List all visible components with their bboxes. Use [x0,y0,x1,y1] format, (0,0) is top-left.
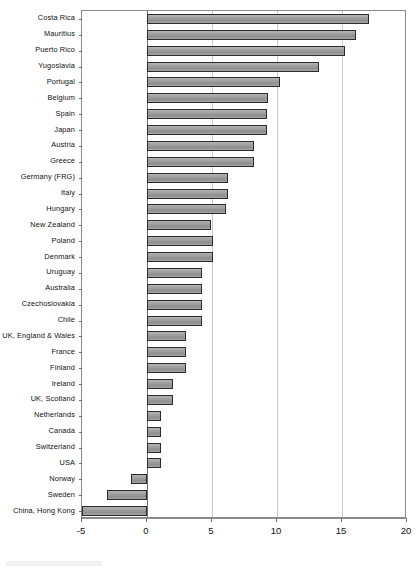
bar [147,173,228,183]
y-axis-tick [79,511,82,512]
category-label: Puerto Rico [35,44,75,55]
y-axis-tick [79,146,82,147]
y-axis-tick [79,67,82,68]
y-axis-tick [79,384,82,385]
bar [107,490,147,500]
y-axis-tick [79,352,82,353]
category-label: Uruguay [46,266,75,277]
y-axis-tick [79,35,82,36]
category-label: Poland [51,235,75,246]
category-label: France [51,346,75,357]
y-axis-tick [79,98,82,99]
plot-area [81,10,406,518]
category-label: Denmark [44,251,75,262]
x-axis-tick [146,518,147,522]
category-label: Japan [54,124,75,135]
category-label: Finland [50,362,75,373]
category-label: Costa Rica [38,12,75,23]
bar [147,458,161,468]
y-axis-tick [79,241,82,242]
category-label: USA [60,457,76,468]
bar [147,252,213,262]
bar [147,62,319,72]
y-axis-tick [79,114,82,115]
category-label: Austria [51,139,75,150]
y-axis-tick [79,305,82,306]
footer-artifact [6,561,102,566]
y-axis-tick [79,479,82,480]
bar [147,109,267,119]
category-label: Chile [58,314,75,325]
bar [147,443,161,453]
y-axis-tick [79,209,82,210]
y-axis-tick [79,273,82,274]
x-axis-tick [406,518,407,522]
category-label: Portugal [47,76,75,87]
category-axis-labels: Costa RicaMauritiusPuerto RicoYugoslavia… [0,10,78,518]
y-axis-tick [79,463,82,464]
bar [147,427,161,437]
category-label: Yugoslavia [38,60,75,71]
x-axis-tick-label: -5 [66,525,96,537]
bar [147,93,268,103]
y-axis-tick [79,368,82,369]
category-label: Spain [56,108,75,119]
category-label: Belgium [48,92,75,103]
bar-chart: Costa RicaMauritiusPuerto RicoYugoslavia… [0,0,419,571]
bar [147,14,369,24]
x-axis-tick-label: 0 [131,525,161,537]
category-label: Switzerland [36,441,75,452]
y-axis-tick [79,194,82,195]
y-axis-tick [79,289,82,290]
bar [147,157,254,167]
bar [147,236,213,246]
category-label: Italy [61,187,75,198]
gridline-15 [342,11,343,517]
x-axis-tick-label: 15 [326,525,356,537]
bar [147,46,345,56]
y-axis-tick [79,178,82,179]
category-label: Sweden [48,489,75,500]
bar [131,474,147,484]
bar [147,300,202,310]
y-axis-tick [79,432,82,433]
y-axis-tick [79,321,82,322]
x-axis-tick [276,518,277,522]
category-label: Norway [49,473,75,484]
y-axis-tick [79,400,82,401]
category-label: UK, England & Wales [2,330,75,341]
bar [147,141,254,151]
bar [147,284,202,294]
bar [147,204,226,214]
category-label: Czechoslovakia [22,298,75,309]
x-axis-tick [81,518,82,522]
y-axis-tick [79,225,82,226]
y-axis-tick [79,336,82,337]
bar [147,30,356,40]
category-label: Germany (FRG) [21,171,75,182]
x-axis-tick-label: 10 [261,525,291,537]
y-axis-tick [79,448,82,449]
y-axis-tick [79,130,82,131]
category-label: UK, Scotland [31,393,75,404]
bar [147,411,161,421]
x-axis-tick [341,518,342,522]
category-label: Hungary [46,203,75,214]
bar [147,220,211,230]
category-label: Ireland [52,378,75,389]
x-axis-line [81,518,406,519]
category-label: New Zealand [30,219,75,230]
bar [147,268,202,278]
category-label: Greece [50,155,75,166]
y-axis-tick [79,416,82,417]
bar [147,347,186,357]
category-label: Netherlands [34,409,75,420]
y-axis-tick [79,162,82,163]
y-axis-tick [79,51,82,52]
bar [147,189,228,199]
y-axis-tick [79,82,82,83]
bar [147,331,186,341]
y-axis-tick [79,19,82,20]
bar [147,379,173,389]
category-label: Australia [45,282,75,293]
